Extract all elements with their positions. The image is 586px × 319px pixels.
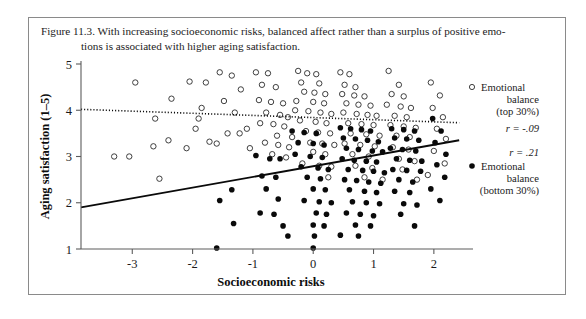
data-point bbox=[214, 141, 219, 146]
data-point bbox=[253, 153, 259, 159]
data-point bbox=[339, 91, 344, 96]
data-point bbox=[310, 222, 316, 228]
data-point bbox=[199, 105, 204, 110]
data-point bbox=[377, 133, 382, 138]
data-point bbox=[371, 213, 377, 219]
data-point bbox=[271, 121, 276, 126]
y-axis-title: Aging satisfaction (1–5) bbox=[38, 94, 52, 220]
data-point bbox=[396, 82, 401, 87]
y-tick-label: 4 bbox=[66, 104, 73, 118]
data-point bbox=[280, 101, 285, 106]
data-point bbox=[307, 154, 313, 160]
data-point bbox=[310, 141, 316, 147]
data-point bbox=[257, 210, 263, 216]
data-point bbox=[311, 99, 316, 104]
data-point bbox=[214, 245, 220, 251]
data-point bbox=[438, 128, 444, 134]
data-point bbox=[388, 145, 394, 151]
data-point bbox=[127, 154, 132, 159]
data-point bbox=[404, 168, 410, 174]
data-point bbox=[404, 136, 410, 142]
data-point bbox=[257, 121, 262, 126]
data-point bbox=[273, 84, 278, 89]
data-point bbox=[412, 223, 418, 229]
data-point bbox=[326, 175, 331, 180]
data-point bbox=[348, 126, 354, 132]
data-point bbox=[366, 179, 372, 185]
data-point bbox=[298, 80, 303, 85]
data-point bbox=[416, 138, 422, 144]
y-tick-label: 5 bbox=[66, 58, 72, 72]
data-point bbox=[392, 113, 397, 118]
data-point bbox=[166, 138, 171, 143]
data-point bbox=[389, 91, 394, 96]
data-point bbox=[376, 139, 382, 145]
data-point bbox=[398, 104, 403, 109]
data-point bbox=[294, 98, 299, 103]
data-point bbox=[374, 113, 379, 118]
data-point bbox=[316, 199, 322, 205]
data-point bbox=[356, 102, 361, 107]
data-point bbox=[374, 190, 380, 196]
data-point bbox=[289, 128, 295, 134]
data-point bbox=[408, 105, 413, 110]
data-point bbox=[271, 212, 277, 218]
data-point bbox=[304, 71, 309, 76]
data-point bbox=[259, 82, 264, 87]
axes: 12345-3-2-1012Socioeconomic risksAging s… bbox=[38, 58, 473, 290]
data-point bbox=[253, 70, 258, 75]
data-point bbox=[386, 68, 391, 73]
data-point bbox=[321, 142, 327, 148]
data-point bbox=[434, 162, 440, 168]
x-tick-label: 0 bbox=[310, 257, 316, 271]
x-axis-title: Socioeconomic risks bbox=[217, 275, 324, 289]
data-point bbox=[350, 199, 356, 205]
data-point bbox=[301, 198, 307, 204]
data-point bbox=[285, 233, 291, 239]
data-point bbox=[407, 190, 413, 196]
data-point bbox=[384, 102, 389, 107]
data-point bbox=[151, 144, 156, 149]
data-point bbox=[184, 145, 189, 150]
trendline-bottom30 bbox=[81, 140, 459, 207]
data-point bbox=[225, 131, 230, 136]
data-point bbox=[418, 169, 424, 175]
data-point bbox=[377, 201, 383, 207]
data-point bbox=[332, 142, 337, 147]
data-point bbox=[425, 172, 430, 177]
data-point bbox=[277, 156, 283, 162]
data-point bbox=[312, 233, 318, 239]
data-point bbox=[389, 126, 395, 132]
data-point bbox=[314, 71, 319, 76]
data-point bbox=[207, 139, 212, 144]
data-point bbox=[346, 121, 351, 126]
data-point bbox=[321, 101, 326, 106]
data-point bbox=[401, 127, 407, 133]
data-point bbox=[338, 70, 343, 75]
data-point bbox=[352, 93, 357, 98]
data-point bbox=[374, 159, 380, 165]
data-point bbox=[276, 142, 281, 147]
data-point bbox=[275, 196, 281, 202]
data-point bbox=[256, 97, 261, 102]
data-point bbox=[401, 94, 406, 99]
data-point bbox=[338, 232, 344, 238]
data-point bbox=[359, 127, 365, 133]
data-point bbox=[368, 223, 374, 229]
y-tick-label: 2 bbox=[66, 196, 72, 210]
data-point bbox=[301, 130, 307, 136]
data-point bbox=[347, 71, 352, 76]
plot-canvas: 12345-3-2-1012Socioeconomic risksAging s… bbox=[29, 18, 567, 296]
data-point bbox=[203, 80, 208, 85]
data-point bbox=[193, 126, 198, 131]
data-point bbox=[301, 89, 306, 94]
data-point bbox=[394, 156, 400, 162]
figure-frame: Figure 11.3. With increasing socioeconom… bbox=[28, 17, 566, 295]
data-point bbox=[443, 151, 449, 157]
x-tick-label: -2 bbox=[187, 257, 197, 271]
data-point bbox=[396, 177, 402, 183]
series-open-circle-points bbox=[111, 68, 448, 182]
x-tick-label: 1 bbox=[370, 257, 376, 271]
data-point bbox=[286, 145, 291, 150]
data-point bbox=[338, 125, 344, 131]
